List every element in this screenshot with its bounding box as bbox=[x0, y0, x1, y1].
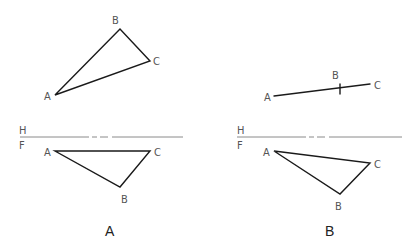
triangle-top-view bbox=[55, 29, 150, 95]
vertex-label-b: B bbox=[335, 200, 342, 213]
triangle-front-view bbox=[274, 151, 370, 194]
ref-label-h: H bbox=[19, 124, 26, 137]
panel-b-reference-line: H F bbox=[237, 124, 402, 152]
triangle-front-view bbox=[55, 151, 150, 187]
vertex-label-c: C bbox=[374, 79, 381, 92]
vertex-label-c: C bbox=[154, 146, 161, 159]
panel-a-top-view: A B C bbox=[44, 14, 160, 103]
vertex-label-b: B bbox=[332, 69, 339, 82]
vertex-label-a: A bbox=[44, 90, 51, 103]
ref-label-h: H bbox=[237, 124, 244, 137]
vertex-label-b: B bbox=[112, 14, 119, 27]
vertex-label-a: A bbox=[263, 146, 270, 159]
panel-a: A B C H F A C B A bbox=[19, 14, 183, 239]
panel-b-front-view: A C B bbox=[263, 146, 381, 213]
panel-b-top-view: A B C bbox=[264, 69, 381, 104]
triangle-edge-view bbox=[274, 84, 370, 96]
orthographic-projection-diagram: A B C H F A C B A A B C bbox=[0, 0, 420, 246]
ref-label-f: F bbox=[19, 139, 25, 152]
panel-caption: A bbox=[105, 223, 115, 239]
vertex-label-a: A bbox=[264, 91, 271, 104]
vertex-label-c: C bbox=[374, 158, 381, 171]
vertex-label-a: A bbox=[44, 146, 51, 159]
panel-b: A B C H F A C B B bbox=[237, 69, 402, 239]
vertex-label-b: B bbox=[121, 193, 128, 206]
ref-label-f: F bbox=[237, 139, 243, 152]
panel-caption: B bbox=[325, 223, 334, 239]
vertex-label-c: C bbox=[153, 55, 160, 68]
panel-a-front-view: A C B bbox=[44, 146, 161, 206]
